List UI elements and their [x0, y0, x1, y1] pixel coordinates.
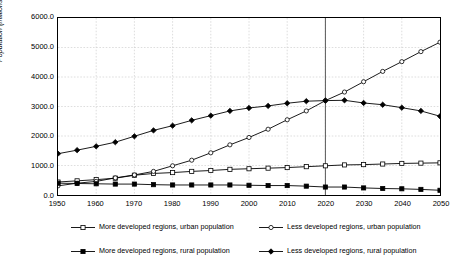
data-point-marker: [399, 105, 404, 110]
data-point-marker: [227, 108, 232, 113]
plot-area: [57, 17, 441, 196]
legend-marker-filled-diamond-icon: [258, 247, 284, 256]
x-axis-tick-label: 2010: [279, 199, 296, 208]
data-point-marker: [171, 183, 175, 187]
data-point-marker: [285, 183, 289, 187]
data-point-marker: [247, 135, 251, 139]
data-point-marker: [361, 100, 366, 105]
y-axis-tick-labels: 0.01000.02000.03000.04000.05000.06000.0: [8, 10, 54, 203]
data-point-marker: [304, 99, 309, 104]
data-point-marker: [381, 186, 385, 190]
legend-entry: More developed regions, rural population: [70, 246, 230, 256]
y-axis-tick-label: 6000.0: [31, 13, 54, 21]
data-point-marker: [438, 40, 440, 44]
data-point-marker: [362, 163, 366, 167]
y-axis-title: Population (millions): [0, 0, 3, 62]
data-point-marker: [113, 182, 117, 186]
data-point-marker: [438, 188, 440, 192]
data-point-marker: [247, 183, 251, 187]
data-point-marker: [228, 143, 232, 147]
legend-entry-label: Less developed regions, rural population: [287, 246, 416, 256]
data-point-marker: [151, 128, 156, 133]
data-point-marker: [132, 182, 136, 186]
data-point-marker: [400, 60, 404, 64]
data-point-marker: [209, 168, 213, 172]
data-point-marker: [419, 50, 423, 54]
data-point-marker: [266, 127, 270, 131]
legend-marker-open-circle-icon: [258, 223, 284, 232]
data-point-marker: [323, 185, 327, 189]
data-point-marker: [132, 134, 137, 139]
legend-entry: More developed regions, urban population: [70, 222, 234, 232]
data-point-marker: [285, 101, 290, 106]
legend-entry-label: Less developed regions, urban population: [287, 222, 420, 232]
data-point-marker: [190, 169, 194, 173]
data-point-marker: [266, 183, 270, 187]
x-axis-tick-label: 1990: [202, 199, 219, 208]
x-axis-tick-label: 1970: [125, 199, 142, 208]
population-projection-chart: Population (millions) 0.01000.02000.0300…: [0, 0, 451, 268]
x-axis-tick-label: 2040: [394, 199, 411, 208]
data-point-marker: [170, 123, 175, 128]
data-point-marker: [400, 187, 404, 191]
y-axis-tick-label: 5000.0: [31, 43, 54, 51]
data-point-marker: [113, 140, 118, 145]
data-point-marker: [75, 181, 79, 185]
data-point-marker: [323, 98, 328, 103]
data-point-marker: [171, 164, 175, 168]
data-point-marker: [265, 103, 270, 108]
x-axis-tick-label: 2000: [241, 199, 258, 208]
data-point-marker: [209, 183, 213, 187]
y-axis-tick-label: 1000.0: [31, 162, 54, 170]
data-point-marker: [189, 118, 194, 123]
data-point-marker: [342, 90, 346, 94]
x-axis-tick-label: 1950: [49, 199, 66, 208]
data-point-marker: [58, 181, 60, 185]
legend-marker-filled-square-icon: [70, 247, 96, 256]
data-point-marker: [171, 171, 175, 175]
legend-marker-open-square-icon: [70, 223, 96, 232]
data-point-marker: [419, 187, 423, 191]
data-point-marker: [266, 166, 270, 170]
data-point-marker: [74, 147, 79, 152]
data-point-marker: [342, 163, 346, 167]
legend-entry-label: More developed regions, urban population: [99, 222, 234, 232]
data-point-marker: [381, 162, 385, 166]
data-point-marker: [419, 161, 423, 165]
x-axis-tick-labels: 1950196019701980199020002010202020302040…: [57, 199, 441, 213]
data-point-marker: [81, 249, 85, 253]
data-point-marker: [268, 248, 273, 253]
data-point-marker: [285, 165, 289, 169]
legend-entry: Less developed regions, urban population: [258, 222, 420, 232]
series-3: [58, 181, 440, 192]
x-axis-tick-label: 1960: [87, 199, 104, 208]
data-point-marker: [81, 225, 85, 229]
plot-svg: [58, 18, 440, 195]
data-point-marker: [381, 69, 385, 73]
data-point-marker: [304, 184, 308, 188]
data-point-marker: [247, 167, 251, 171]
data-point-marker: [132, 173, 136, 177]
y-axis-tick-label: 2000.0: [31, 132, 54, 140]
data-point-marker: [94, 144, 99, 149]
data-point-marker: [209, 151, 213, 155]
data-point-marker: [437, 114, 440, 119]
data-point-marker: [228, 167, 232, 171]
y-axis-tick-label: 3000.0: [31, 103, 54, 111]
data-point-marker: [228, 183, 232, 187]
data-point-marker: [304, 109, 308, 113]
x-axis-tick-label: 1980: [164, 199, 181, 208]
data-point-marker: [151, 169, 155, 173]
chart-legend: More developed regions, urban population…: [0, 222, 451, 266]
data-point-marker: [323, 164, 327, 168]
data-point-marker: [246, 105, 251, 110]
data-point-marker: [418, 108, 423, 113]
data-point-marker: [190, 158, 194, 162]
data-point-marker: [438, 161, 440, 165]
x-axis-tick-label: 2030: [356, 199, 373, 208]
legend-entry-label: More developed regions, rural population: [99, 246, 230, 256]
data-point-marker: [113, 176, 117, 180]
data-point-marker: [285, 118, 289, 122]
data-point-marker: [342, 98, 347, 103]
data-point-marker: [362, 80, 366, 84]
